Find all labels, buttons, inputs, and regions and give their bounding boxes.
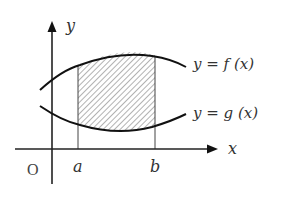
x-axis-arrow-icon: [207, 145, 218, 154]
curve-g-label: y = g (x): [192, 104, 258, 122]
shaded-region: [78, 52, 155, 131]
y-axis-label: y: [65, 16, 76, 35]
bound-a-label: a: [73, 157, 83, 176]
origin-label: O: [27, 161, 39, 178]
curve-f-label: y = f (x): [192, 55, 254, 73]
y-axis: [48, 21, 57, 184]
y-axis-arrow-icon: [48, 21, 57, 32]
x-axis-label: x: [228, 139, 237, 158]
bound-b-label: b: [150, 157, 160, 176]
area-between-curves-diagram: y x O a b y = f (x) y = g (x): [0, 0, 286, 197]
x-axis: [15, 145, 218, 154]
